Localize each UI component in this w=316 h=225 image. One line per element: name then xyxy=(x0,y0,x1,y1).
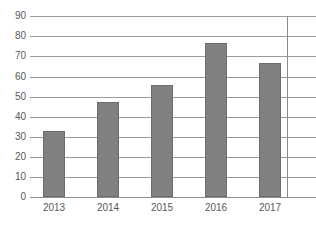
y-tick-label: 0 xyxy=(0,192,26,202)
bar-2015[interactable] xyxy=(151,85,173,197)
bar-2017[interactable] xyxy=(259,63,281,197)
y-tick-label: 70 xyxy=(0,51,26,61)
y-tick-label: 60 xyxy=(0,72,26,82)
y-tick-label: 50 xyxy=(0,92,26,102)
y-tick-label: 40 xyxy=(0,112,26,122)
x-tick-label-2014: 2014 xyxy=(80,203,136,213)
y-tick-label: 90 xyxy=(0,11,26,21)
gridline-90 xyxy=(30,16,316,17)
bar-2013[interactable] xyxy=(43,131,65,197)
bar-2014[interactable] xyxy=(97,102,119,197)
plot-right-border xyxy=(287,16,288,198)
x-tick-label-2016: 2016 xyxy=(188,203,244,213)
bar-chart: 90 80 70 60 50 40 30 20 10 0 2013 2014 2… xyxy=(0,0,316,225)
y-tick-label: 20 xyxy=(0,152,26,162)
plot-area: 2013 2014 2015 2016 2017 xyxy=(30,0,316,225)
x-tick-label-2013: 2013 xyxy=(26,203,82,213)
gridline-80 xyxy=(30,36,316,37)
y-tick-label: 30 xyxy=(0,132,26,142)
gridline-70 xyxy=(30,56,316,57)
y-tick-label: 10 xyxy=(0,172,26,182)
x-tick-label-2015: 2015 xyxy=(134,203,190,213)
x-tick-label-2017: 2017 xyxy=(242,203,298,213)
y-axis: 90 80 70 60 50 40 30 20 10 0 xyxy=(0,0,26,225)
gridline-baseline-0 xyxy=(30,197,316,198)
y-tick-label: 80 xyxy=(0,31,26,41)
bar-2016[interactable] xyxy=(205,43,227,197)
